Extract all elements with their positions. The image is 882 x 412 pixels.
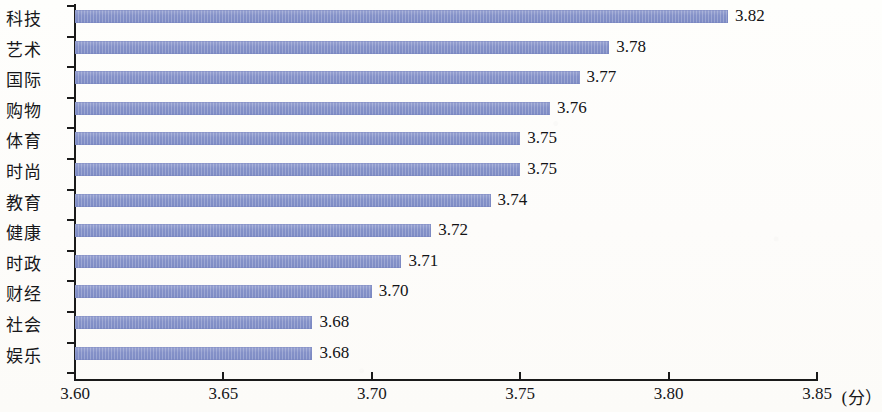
bar-value-label: 3.68 (319, 343, 349, 363)
bar (75, 10, 728, 23)
bar (75, 347, 312, 360)
bar-value-label: 3.77 (587, 67, 617, 87)
category-label: 时政 (6, 250, 72, 275)
category-label: 艺术 (6, 36, 72, 61)
x-axis-tick-label: 3.65 (209, 384, 239, 404)
x-axis-tick (371, 372, 373, 379)
category-label: 时尚 (6, 158, 72, 183)
category-label: 财经 (6, 280, 72, 305)
bar-value-label: 3.74 (498, 190, 528, 210)
x-axis-tick-label: 3.80 (654, 384, 684, 404)
bar (75, 194, 491, 207)
bar-value-label: 3.82 (735, 6, 765, 26)
x-axis-tick (74, 372, 76, 380)
bar-value-label: 3.72 (438, 220, 468, 240)
category-label: 国际 (6, 66, 72, 91)
x-axis-tick (222, 372, 224, 379)
bar (75, 132, 520, 145)
x-axis-tick (816, 372, 818, 380)
bar (75, 316, 312, 329)
bar-value-label: 3.71 (408, 251, 438, 271)
horizontal-bar-chart: 科技艺术国际购物体育时尚教育健康时政财经社会娱乐 3.823.783.773.7… (0, 0, 882, 412)
category-label: 娱乐 (6, 342, 72, 367)
category-label: 健康 (6, 219, 72, 244)
bar (75, 102, 550, 115)
bar (75, 163, 520, 176)
bar (75, 224, 431, 237)
x-axis-tick (519, 372, 521, 379)
bar-value-label: 3.78 (616, 37, 646, 57)
category-label: 科技 (6, 5, 72, 30)
bar (75, 71, 580, 84)
x-axis-tick-label: 3.75 (505, 384, 535, 404)
x-axis-tick (668, 372, 670, 379)
x-axis-tick-label: 3.70 (357, 384, 387, 404)
y-axis-tick (67, 372, 74, 374)
bar-value-label: 3.75 (527, 128, 557, 148)
bar (75, 255, 401, 268)
x-axis-line (74, 379, 818, 381)
bar-value-label: 3.75 (527, 159, 557, 179)
bar-value-label: 3.76 (557, 98, 587, 118)
category-label: 购物 (6, 97, 72, 122)
category-label: 体育 (6, 127, 72, 152)
bar (75, 285, 372, 298)
x-axis-tick-label: 3.85 (802, 384, 832, 404)
category-label: 社会 (6, 311, 72, 336)
bar-value-label: 3.70 (379, 281, 409, 301)
bar-value-label: 3.68 (319, 312, 349, 332)
axis-unit-label: (分） (841, 384, 882, 409)
x-axis-tick-label: 3.60 (60, 384, 90, 404)
category-label: 教育 (6, 189, 72, 214)
bar (75, 41, 609, 54)
